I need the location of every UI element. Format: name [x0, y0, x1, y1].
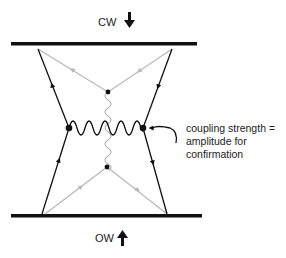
down-arrow-icon — [124, 12, 135, 28]
bottom-mirror-bar — [11, 214, 202, 218]
up-arrow-icon — [117, 230, 128, 246]
top-mirror-bar — [11, 42, 197, 46]
gray-arrowheads — [72, 69, 142, 190]
transaction-diagram — [0, 0, 286, 258]
gray-paths — [38, 49, 172, 214]
